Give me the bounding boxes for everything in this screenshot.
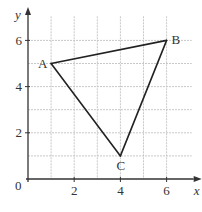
x-tick-label: 2	[71, 183, 78, 198]
x-tick-label: 4	[117, 183, 124, 198]
origin-label: 0	[15, 178, 22, 193]
edge-ab	[51, 40, 167, 63]
x-axis-label: x	[193, 183, 200, 198]
edge-bc	[120, 40, 166, 155]
vertex-labels: ABC	[38, 32, 181, 173]
coordinate-diagram: x y 0 246246 ABC	[0, 0, 202, 212]
y-axis-arrow-icon	[25, 7, 31, 15]
y-tick-label: 6	[16, 33, 23, 48]
y-axis-label: y	[13, 7, 21, 22]
y-tick-label: 2	[16, 125, 23, 140]
plot-canvas: x y 0 246246 ABC	[0, 0, 202, 212]
vertex-label-b: B	[172, 32, 181, 47]
vertex-label-c: C	[116, 158, 125, 173]
triangle-abc	[51, 40, 167, 155]
vertex-label-a: A	[38, 56, 48, 71]
x-axis-arrow-icon	[194, 176, 202, 182]
y-tick-label: 4	[16, 79, 23, 94]
x-tick-label: 6	[163, 183, 170, 198]
